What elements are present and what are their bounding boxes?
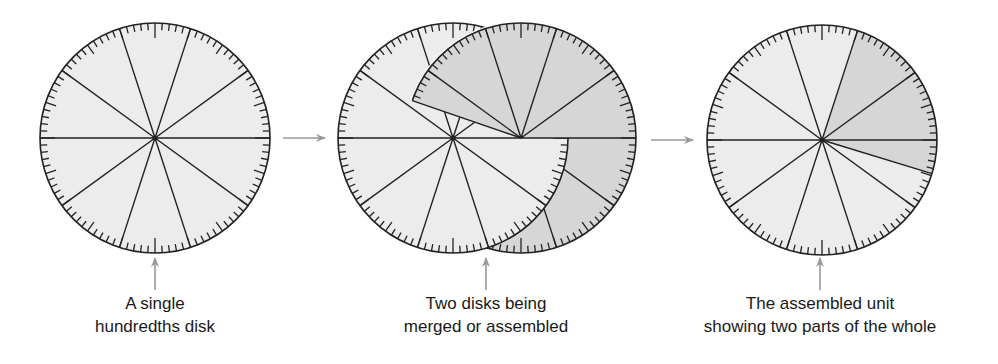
assembled-disk — [707, 25, 937, 255]
single-hundredths-disk — [40, 23, 270, 253]
center-pin — [451, 136, 456, 141]
caption-merging-disks: Two disks being merged or assembled — [404, 292, 568, 338]
caption-line: merged or assembled — [404, 315, 568, 338]
center-pin — [153, 136, 158, 141]
caption-line: Two disks being — [404, 292, 568, 315]
white-hundredths-disk — [40, 23, 270, 253]
assembled-disk-unit — [707, 25, 937, 255]
two-disks-merging — [338, 23, 636, 253]
center-pin — [820, 138, 825, 143]
caption-line: A single — [95, 292, 215, 315]
caption-line: showing two parts of the whole — [704, 315, 936, 338]
caption-assembled-unit: The assembled unit showing two parts of … — [704, 292, 936, 338]
caption-line: The assembled unit — [704, 292, 936, 315]
caption-single-disk: A single hundredths disk — [95, 292, 215, 338]
caption-pointer-arrows — [155, 258, 820, 290]
caption-line: hundredths disk — [95, 315, 215, 338]
